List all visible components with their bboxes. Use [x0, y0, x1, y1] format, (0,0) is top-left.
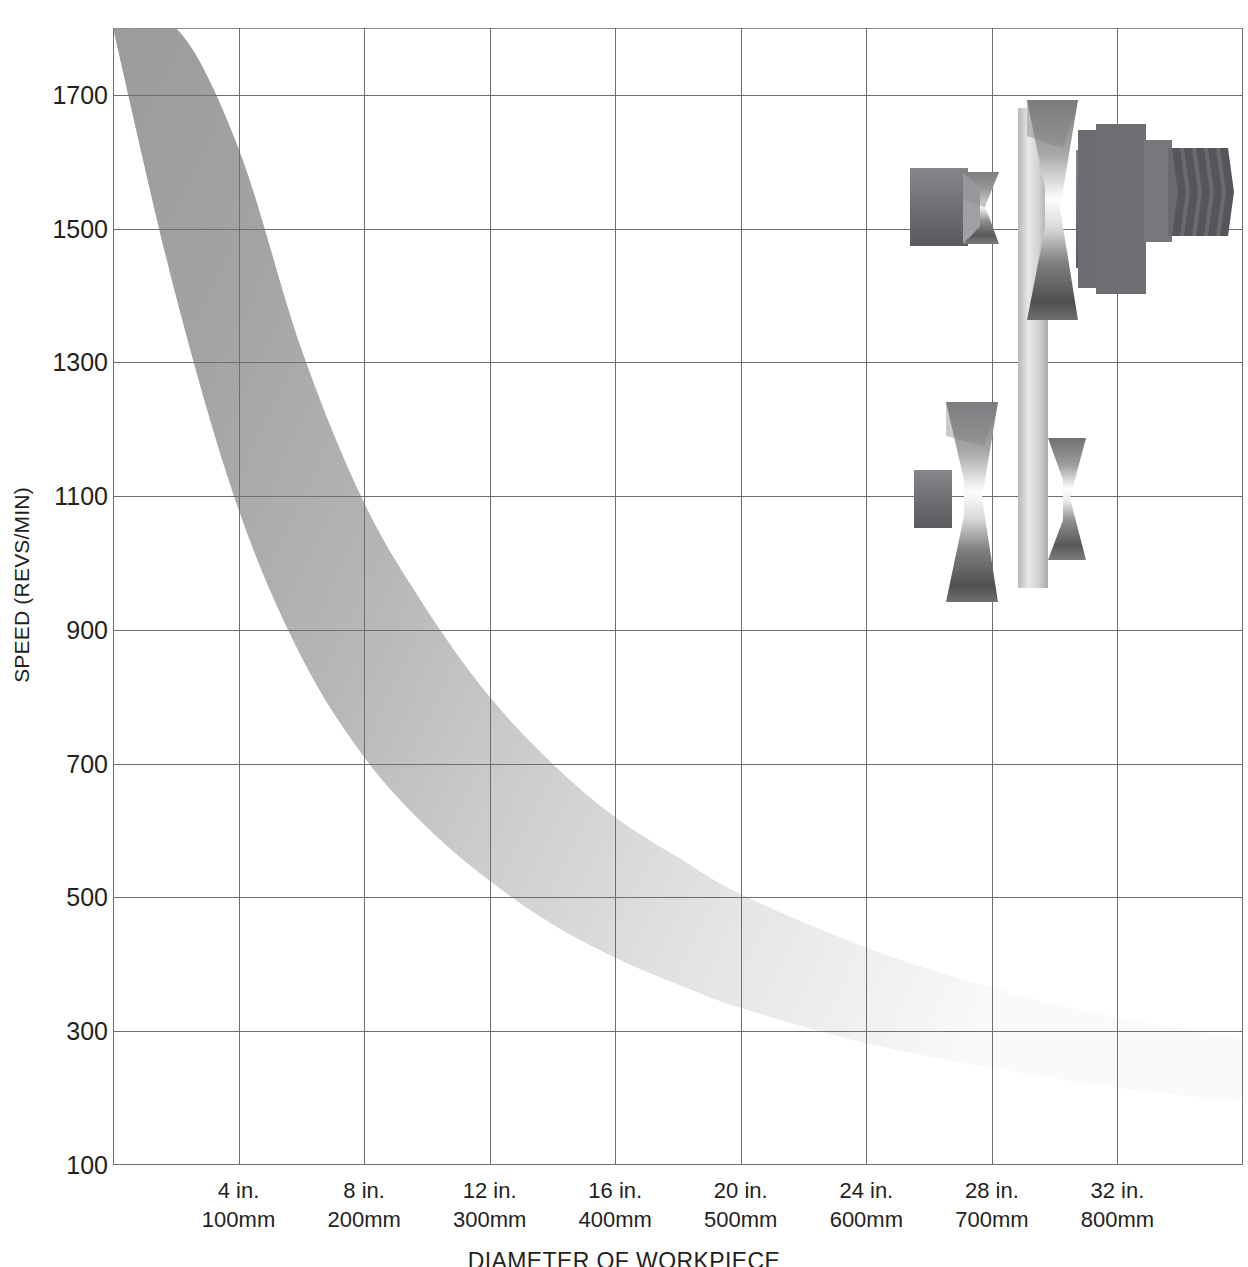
vertical-gridline — [1242, 28, 1243, 1165]
x-tick-inches: 12 in. — [463, 1178, 517, 1203]
x-tick-inches: 8 in. — [343, 1178, 385, 1203]
horizontal-gridline — [113, 630, 1243, 631]
y-tick-label: 1700 — [36, 80, 108, 109]
x-axis-tick-labels: 4 in.100mm8 in.200mm12 in.300mm16 in.400… — [113, 1176, 1243, 1238]
horizontal-gridline — [113, 897, 1243, 898]
vertical-gridline — [239, 28, 240, 1165]
x-tick-inches: 4 in. — [218, 1178, 260, 1203]
horizontal-gridline — [113, 362, 1243, 363]
plot-area — [113, 28, 1243, 1165]
y-axis-tick-labels: 1003005007009001100130015001700 — [30, 0, 108, 1267]
horizontal-gridline — [113, 764, 1243, 765]
vertical-gridline — [364, 28, 365, 1165]
plot-frame — [113, 28, 1243, 1165]
horizontal-gridline — [113, 95, 1243, 96]
horizontal-gridline — [113, 229, 1243, 230]
horizontal-gridline — [113, 1031, 1243, 1032]
y-tick-label: 1500 — [36, 214, 108, 243]
vertical-gridline — [490, 28, 491, 1165]
y-tick-label: 1300 — [36, 348, 108, 377]
x-tick-inches: 16 in. — [588, 1178, 642, 1203]
x-axis-title: DIAMETER OF WORKPIECE — [0, 1248, 1248, 1267]
vertical-gridline — [741, 28, 742, 1165]
y-tick-label: 700 — [36, 749, 108, 778]
vertical-gridline — [615, 28, 616, 1165]
chart-page: SPEED (REVS/MIN) 10030050070090011001300… — [0, 0, 1248, 1267]
vertical-gridline — [866, 28, 867, 1165]
y-tick-label: 300 — [36, 1017, 108, 1046]
x-tick-label: 32 in.800mm — [1037, 1176, 1197, 1234]
y-tick-label: 900 — [36, 615, 108, 644]
x-tick-inches: 28 in. — [965, 1178, 1019, 1203]
y-tick-label: 1100 — [36, 482, 108, 511]
vertical-gridline — [1117, 28, 1118, 1165]
vertical-gridline — [992, 28, 993, 1165]
x-tick-inches: 20 in. — [714, 1178, 768, 1203]
horizontal-gridline — [113, 496, 1243, 497]
x-tick-inches: 24 in. — [839, 1178, 893, 1203]
x-tick-inches: 32 in. — [1091, 1178, 1145, 1203]
x-tick-mm: 800mm — [1037, 1205, 1197, 1234]
y-tick-label: 500 — [36, 883, 108, 912]
y-tick-label: 100 — [36, 1151, 108, 1180]
